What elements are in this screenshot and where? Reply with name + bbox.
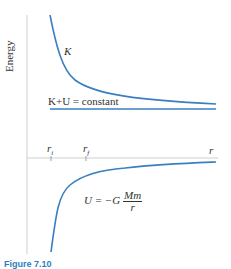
y-axis-label: Energy: [3, 40, 15, 72]
r-axis-label: r: [209, 144, 213, 156]
kinetic-energy-curve: [50, 15, 216, 104]
tick-label-ri: ri: [47, 142, 53, 157]
total-energy-label: K+U = constant: [48, 95, 118, 107]
potential-formula: U = −G Mmr: [84, 190, 142, 213]
figure-caption: Figure 7.10: [4, 259, 52, 269]
tick-label-rf: rf: [83, 142, 89, 157]
kinetic-label: K: [64, 45, 71, 57]
